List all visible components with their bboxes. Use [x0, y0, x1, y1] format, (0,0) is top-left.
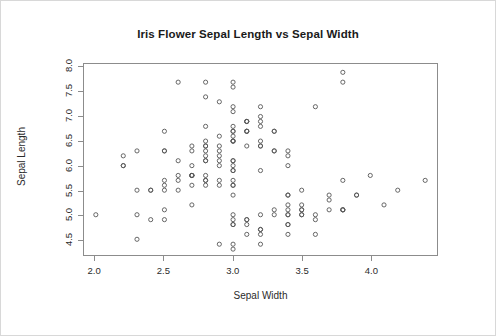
x-axis-tick-label: 4.0	[351, 265, 391, 276]
y-axis-label: Sepal Length	[16, 97, 27, 217]
data-point	[286, 208, 290, 212]
data-point	[217, 100, 221, 104]
x-axis-tick-label: 3.0	[213, 265, 253, 276]
data-point	[286, 193, 290, 197]
data-point	[327, 198, 331, 202]
data-point	[245, 222, 249, 226]
data-point	[258, 114, 262, 118]
data-point	[135, 237, 139, 241]
data-point	[272, 149, 276, 153]
x-axis-label: Sepal Width	[83, 290, 438, 301]
data-point	[176, 159, 180, 163]
data-point	[258, 213, 262, 217]
data-point	[204, 183, 208, 187]
data-points-layer	[84, 64, 437, 255]
data-point	[204, 144, 208, 148]
data-point	[217, 134, 221, 138]
data-point	[231, 134, 235, 138]
data-point	[162, 178, 166, 182]
data-point	[258, 124, 262, 128]
data-point	[354, 193, 358, 197]
data-point	[327, 208, 331, 212]
data-point	[313, 213, 317, 217]
data-point	[313, 105, 317, 109]
data-point	[258, 168, 262, 172]
data-point	[245, 119, 249, 123]
data-point	[162, 188, 166, 192]
data-point	[190, 149, 194, 153]
data-point	[231, 85, 235, 89]
scatter-plot-figure: Iris Flower Sepal Length vs Sepal Width …	[1, 1, 495, 335]
data-point	[341, 80, 345, 84]
data-point	[231, 105, 235, 109]
data-point	[231, 242, 235, 246]
data-point	[231, 159, 235, 163]
x-axis-tick-label: 2.0	[74, 265, 114, 276]
data-point	[217, 164, 221, 168]
data-point	[190, 183, 194, 187]
data-point	[204, 154, 208, 158]
data-point	[258, 227, 262, 231]
data-point	[300, 188, 304, 192]
chart-title: Iris Flower Sepal Length vs Sepal Width	[1, 28, 495, 40]
data-point	[190, 173, 194, 177]
data-point	[204, 149, 208, 153]
data-point	[176, 173, 180, 177]
data-point	[231, 124, 235, 128]
data-point	[162, 208, 166, 212]
data-point	[176, 188, 180, 192]
data-point	[396, 188, 400, 192]
data-point	[176, 178, 180, 182]
data-point	[217, 154, 221, 158]
data-point	[204, 159, 208, 163]
data-point	[245, 144, 249, 148]
data-point	[176, 80, 180, 84]
data-point	[423, 178, 427, 182]
data-point	[204, 124, 208, 128]
x-axis-tick-label: 3.5	[282, 265, 322, 276]
data-point	[135, 188, 139, 192]
data-point	[217, 178, 221, 182]
data-point	[162, 183, 166, 187]
data-point	[245, 218, 249, 222]
x-axis-tick-mark	[371, 256, 372, 261]
data-point	[231, 213, 235, 217]
data-point	[162, 218, 166, 222]
data-point	[204, 173, 208, 177]
data-point	[258, 232, 262, 236]
data-point	[135, 213, 139, 217]
data-point	[162, 129, 166, 133]
data-point	[217, 149, 221, 153]
data-point	[149, 188, 153, 192]
data-point	[217, 183, 221, 187]
data-point	[300, 208, 304, 212]
data-point	[341, 70, 345, 74]
data-point	[231, 222, 235, 226]
data-point	[272, 208, 276, 212]
x-axis-tick-mark	[302, 256, 303, 261]
data-point	[121, 164, 125, 168]
data-point	[190, 203, 194, 207]
data-point	[286, 154, 290, 158]
x-axis-tick-mark	[94, 256, 95, 261]
data-point	[382, 203, 386, 207]
data-point	[341, 208, 345, 212]
data-point	[286, 164, 290, 168]
data-point	[231, 193, 235, 197]
data-point	[368, 173, 372, 177]
data-point	[217, 159, 221, 163]
data-point	[231, 183, 235, 187]
data-point	[313, 218, 317, 222]
data-point	[190, 164, 194, 168]
data-point	[272, 129, 276, 133]
data-point	[204, 139, 208, 143]
data-point	[286, 213, 290, 217]
data-point	[231, 139, 235, 143]
data-point	[94, 213, 98, 217]
data-point	[231, 168, 235, 172]
data-point	[327, 193, 331, 197]
data-point	[231, 129, 235, 133]
data-point	[245, 232, 249, 236]
x-axis-tick-mark	[163, 256, 164, 261]
x-axis-tick-label: 2.5	[143, 265, 183, 276]
